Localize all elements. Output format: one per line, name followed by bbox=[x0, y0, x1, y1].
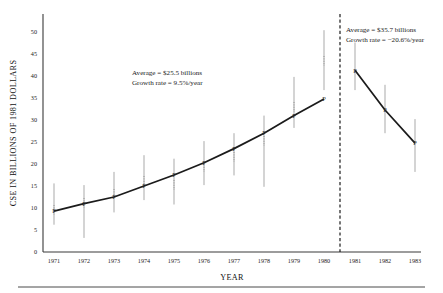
data-point-marker: P bbox=[202, 159, 206, 166]
data-point-marker: P bbox=[353, 67, 357, 74]
x-tick-label: 1977 bbox=[228, 257, 240, 264]
annotation-left-average: Average = $25.5 billions bbox=[132, 69, 202, 77]
x-tick-label: 1981 bbox=[349, 257, 361, 264]
x-tick-label: 1976 bbox=[198, 257, 210, 264]
y-tick-label: 40 bbox=[31, 72, 37, 79]
y-tick-label: 15 bbox=[31, 182, 37, 189]
data-point-marker: P bbox=[262, 129, 266, 136]
annotation-right-growth: Growth rate = −20.6%/year bbox=[346, 36, 425, 44]
data-point-marker: P bbox=[292, 112, 296, 119]
y-axis-title: CSE IN BILLIONS OF 1981 DOLLARS bbox=[9, 60, 18, 207]
x-tick-label: 1975 bbox=[168, 257, 180, 264]
x-tick-label: 1971 bbox=[48, 257, 60, 264]
x-tick-label: 1972 bbox=[78, 257, 90, 264]
data-point-marker: P bbox=[142, 182, 146, 189]
x-tick-label: 1973 bbox=[108, 257, 120, 264]
data-point-marker: P bbox=[112, 193, 116, 200]
data-point-marker: P bbox=[172, 171, 176, 178]
data-point-marker: P bbox=[52, 207, 56, 214]
y-tick-label: 5 bbox=[34, 226, 37, 233]
x-axis-title: YEAR bbox=[220, 273, 244, 282]
y-tick-label: 0 bbox=[34, 248, 37, 255]
data-point-marker: P bbox=[413, 139, 417, 146]
data-point-marker: P bbox=[232, 145, 236, 152]
x-tick-label: 1982 bbox=[379, 257, 391, 264]
x-tick-label: 1983 bbox=[409, 257, 421, 264]
chart-svg: 0 5 10 15 20 25 30 35 40 45 50 1971 1972… bbox=[0, 0, 443, 293]
annotation-right-average: Average = $35.7 billions bbox=[346, 26, 416, 34]
x-tick-label: 1980 bbox=[318, 257, 330, 264]
x-tick-label: 1974 bbox=[138, 257, 150, 264]
annotation-left-growth: Growth rate = 9.5%/year bbox=[132, 79, 203, 87]
y-tick-label: 30 bbox=[31, 116, 37, 123]
y-tick-label: 45 bbox=[31, 50, 37, 57]
y-tick-label: 35 bbox=[31, 94, 37, 101]
x-tick-label: 1978 bbox=[258, 257, 270, 264]
y-tick-label: 10 bbox=[31, 204, 37, 211]
y-tick-label: 50 bbox=[31, 28, 37, 35]
y-tick-label: 20 bbox=[31, 160, 37, 167]
data-point-marker: P bbox=[322, 95, 326, 102]
data-point-marker: P bbox=[383, 106, 387, 113]
x-tick-label: 1979 bbox=[288, 257, 300, 264]
data-point-marker: P bbox=[82, 200, 86, 207]
y-tick-label: 25 bbox=[31, 138, 37, 145]
chart-figure: 0 5 10 15 20 25 30 35 40 45 50 1971 1972… bbox=[0, 0, 443, 293]
